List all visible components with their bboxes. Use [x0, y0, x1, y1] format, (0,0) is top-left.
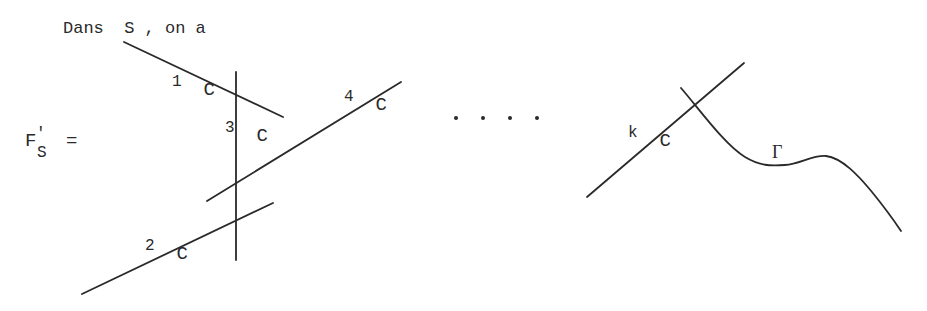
label-c3-base: C	[257, 125, 268, 147]
label-c3: C	[211, 108, 268, 165]
label-c2-sub: 2	[145, 238, 155, 254]
label-ck-sub: k	[628, 125, 638, 141]
label-c4-sub: 4	[344, 89, 354, 105]
lhs-subscript: S	[37, 145, 47, 161]
label-c4-base: C	[376, 94, 387, 116]
label-c1: C	[158, 62, 215, 119]
label-c1-sub: 1	[172, 74, 182, 90]
label-ck: C	[614, 113, 671, 170]
label-gamma: Γ	[772, 143, 782, 161]
lhs-equals: =	[66, 132, 77, 151]
label-c2-base: C	[177, 243, 188, 265]
label-c3-sub: 3	[225, 120, 235, 136]
caption-text: Dans S , on a	[63, 20, 206, 37]
lhs-symbol: F	[25, 132, 36, 151]
lhs-prime: '	[36, 126, 46, 142]
curve-gamma	[681, 88, 901, 231]
ellipsis-dots	[454, 116, 539, 120]
label-ck-base: C	[660, 130, 671, 152]
label-c2: C	[131, 226, 188, 283]
label-c1-base: C	[204, 79, 215, 101]
diagram-canvas: Dans S , on a F ' S = C 1 C 3 C 4 C 2 C …	[0, 0, 927, 311]
label-c4: C	[330, 77, 387, 134]
